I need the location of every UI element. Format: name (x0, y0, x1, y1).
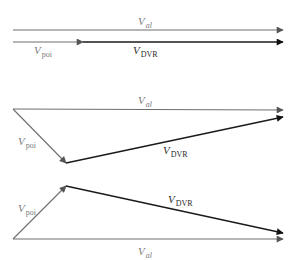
phasor-diagram-leading: VpoiVDVRVal (13, 186, 283, 260)
v-al-label: Val (138, 245, 153, 260)
phasor-diagram-in-phase: ValVpoiVDVR (13, 15, 283, 59)
v-al-vector (13, 109, 283, 110)
v-poi-label: Vpoi (18, 202, 37, 217)
v-dvr-label: VDVR (168, 193, 193, 208)
phasor-diagrams: ValVpoiVDVRValVpoiVDVRVpoiVDVRVal (0, 0, 297, 260)
v-dvr-label: VDVR (163, 144, 188, 159)
v-dvr-label: VDVR (133, 44, 158, 59)
v-al-label: Val (138, 94, 153, 109)
phasor-diagram-lagging: ValVpoiVDVR (13, 94, 283, 163)
v-poi-label: Vpoi (34, 44, 53, 59)
v-poi-label: Vpoi (18, 135, 37, 150)
v-al-label: Val (138, 15, 153, 30)
